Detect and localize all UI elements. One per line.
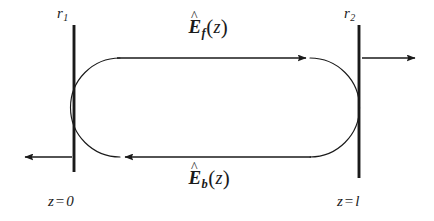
right-coordinate-label: z=l xyxy=(337,194,359,209)
left-coord-equals: = xyxy=(56,193,64,209)
backward-close-paren: ) xyxy=(223,166,230,190)
backward-field-subscript: b xyxy=(201,177,207,191)
right-mirror-subscript: 2 xyxy=(350,12,355,23)
right-coord-value: l xyxy=(355,193,359,209)
backward-open-paren: ( xyxy=(208,166,215,190)
forward-field-symbol: ^E xyxy=(188,17,202,36)
hat-accent-icon: ^ xyxy=(191,161,198,175)
forward-field-argument: z xyxy=(213,17,220,37)
left-mirror-subscript: 1 xyxy=(63,12,68,23)
forward-field-label: ^Ef(z) xyxy=(188,17,228,39)
backward-field-label: ^Eb(z) xyxy=(188,168,230,190)
left-coord-variable: z xyxy=(48,193,54,209)
forward-close-paren: ) xyxy=(221,15,228,39)
right-coord-equals: = xyxy=(345,193,353,209)
hat-accent-icon: ^ xyxy=(191,10,198,24)
left-coord-value: 0 xyxy=(66,193,74,209)
left-mirror-reflectivity-label: r1 xyxy=(57,6,68,23)
right-mirror-symbol: r xyxy=(344,5,350,21)
left-loop-arc xyxy=(71,58,121,157)
right-coord-variable: z xyxy=(337,193,343,209)
backward-field-argument: z xyxy=(216,168,223,188)
fabry-perot-cavity-diagram: r1 r2 ^Ef(z) ^Eb(z) z=0 z=l xyxy=(0,0,434,221)
left-mirror-symbol: r xyxy=(57,5,63,21)
left-coordinate-label: z=0 xyxy=(48,194,74,209)
backward-field-symbol: ^E xyxy=(188,168,202,187)
right-mirror-reflectivity-label: r2 xyxy=(344,6,355,23)
right-loop-arc xyxy=(310,58,360,157)
